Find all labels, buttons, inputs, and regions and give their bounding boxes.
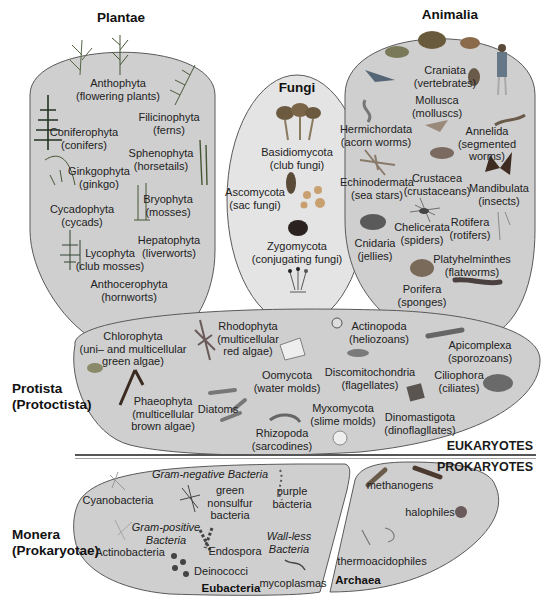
mushroom-icon bbox=[305, 107, 321, 119]
phylum-sphenophyta: Sphenophyta(horsetails) bbox=[129, 147, 194, 172]
bird-icon bbox=[460, 37, 480, 49]
group-mycoplasmas: mycoplasmas bbox=[259, 577, 326, 590]
phylum-ciliophora: Ciliophora(ciliates) bbox=[434, 369, 484, 394]
phylum-porifera: Porifera(sponges) bbox=[398, 283, 447, 308]
phylum-rotifera: Rotifera(rotifers) bbox=[450, 216, 491, 241]
phylum-anthocerophyta: Anthocerophyta(hornworts) bbox=[90, 278, 167, 303]
phylum-oomycota: Oomycota(water molds) bbox=[254, 369, 321, 394]
phylum-apicomplexa: Apicomplexa(sporozoans) bbox=[448, 339, 512, 364]
protista-title: Protista(Protoctista) bbox=[12, 381, 92, 413]
group-endospora: Endospora bbox=[208, 545, 261, 558]
phylum-diatoms: Diatoms bbox=[198, 403, 238, 416]
gram-negative-label: Gram-negative Bacteria bbox=[152, 468, 268, 481]
turtle-icon bbox=[418, 31, 446, 49]
phylum-cnidaria: Cnidaria(jellies) bbox=[355, 237, 396, 262]
phylum-dinomastigota: Dinomastigota(dinoflagllates) bbox=[384, 411, 456, 436]
heliozoan-icon bbox=[332, 318, 342, 328]
halophile-icon bbox=[455, 506, 467, 518]
phylum-coniferophyta: Coniferophyta(conifers) bbox=[50, 126, 119, 151]
gram-positive-label: Gram-positiveBacteria bbox=[132, 521, 200, 546]
eubacteria-label: Eubacteria bbox=[202, 582, 261, 594]
mushroom-icon bbox=[276, 106, 294, 120]
group-actinobacteria: Actinobacteria bbox=[95, 546, 165, 559]
archaea-label: Archaea bbox=[335, 574, 380, 586]
phylum-myxomycota: Myxomycota(slime molds) bbox=[310, 402, 375, 427]
yeast-icon bbox=[303, 191, 311, 199]
morel-icon bbox=[286, 172, 296, 194]
phylum-phaeophyta: Phaeophyta(multicellularbrown algae) bbox=[131, 395, 195, 433]
phylum-chlorophyta: Chlorophyta(uni– and multicellulargreen … bbox=[80, 330, 187, 368]
phylum-basidiomycota: Basidiomycota(club fungi) bbox=[261, 146, 333, 171]
phylum-bryophyta: Bryophyta(mosses) bbox=[143, 193, 193, 218]
group-green-nonsulfur: greennonsulfurbacteria bbox=[207, 484, 252, 522]
group-halophiles: halophiles bbox=[405, 506, 455, 519]
group-purple-bacteria: purplebacteria bbox=[272, 485, 311, 510]
phylum-hepatophyta: Hepatophyta(liverworts) bbox=[138, 234, 200, 259]
phylum-discomitochondria: Discomitochondria(flagellates) bbox=[325, 366, 415, 391]
phylum-craniata: Craniata(vertebrates) bbox=[414, 64, 476, 89]
sponge-icon bbox=[410, 259, 434, 277]
phylum-hermichordata: Hermichordata(acorn worms) bbox=[340, 123, 412, 148]
phylum-filicinophyta: Filicinophyta(ferns) bbox=[138, 111, 199, 136]
phylum-mollusca: Mollusca(molluscs) bbox=[412, 94, 462, 119]
phylum-rhizopoda: Rhizopoda(sarcodines) bbox=[252, 427, 313, 452]
human-icon bbox=[497, 52, 507, 77]
bread-mold-icon bbox=[288, 220, 308, 236]
phylum-crustacea: Crustacea(crustaceans) bbox=[404, 172, 471, 197]
group-methanogens: methanogens bbox=[367, 479, 434, 492]
group-thermoacidophiles: thermoacidophiles bbox=[337, 555, 426, 568]
phylum-annelida: Annelida(segmentedworms) bbox=[458, 125, 516, 163]
plantae-title: Plantae bbox=[97, 10, 145, 25]
phylum-ginkgophyta: Ginkgophyta(ginkgo) bbox=[68, 165, 130, 190]
deinococci-icon bbox=[172, 565, 178, 571]
crab-icon bbox=[430, 147, 454, 159]
group-cyanobacteria: Cyanobacteria bbox=[83, 494, 154, 507]
prokaryotes-label: PROKARYOTES bbox=[437, 460, 533, 474]
phylum-rhodophyta: Rhodophyta(multicellularred algae) bbox=[217, 320, 279, 358]
frog-icon bbox=[385, 46, 409, 58]
phylum-lycophyta: Lycophyta(club mosses) bbox=[76, 247, 144, 272]
wall-less-label: Wall-lessBacteria bbox=[267, 530, 311, 555]
flagellate-icon bbox=[347, 349, 369, 357]
animalia-title: Animalia bbox=[422, 7, 478, 22]
fungi-title: Fungi bbox=[279, 80, 316, 95]
jellyfish-icon bbox=[360, 214, 386, 230]
phylum-actinopoda: Actinopoda(heliozoans) bbox=[349, 320, 409, 345]
slime-mold-icon bbox=[333, 431, 347, 445]
group-deinococci: Deinococci bbox=[194, 565, 248, 578]
eukaryotes-label: EUKARYOTES bbox=[447, 439, 533, 453]
phylum-ascomycota: Ascomycota(sac fungi) bbox=[225, 186, 285, 211]
phylum-platyhelminthes: Platyhelminthes(flatworms) bbox=[433, 253, 511, 278]
monera-title: Monera(Prokaryotae) bbox=[12, 527, 99, 559]
ciliate-icon bbox=[483, 374, 513, 392]
phylum-chelicerata: Chelicerata(spiders) bbox=[394, 221, 450, 246]
phylum-cycadophyta: Cycadophyta(cycads) bbox=[50, 203, 114, 228]
phylum-anthophyta: Anthophyta(flowering plants) bbox=[76, 77, 160, 102]
phylum-mandibulata: Mandibulata(insects) bbox=[469, 182, 529, 207]
phylum-zygomycota: Zygomycota(conjugating fungi) bbox=[252, 240, 343, 265]
